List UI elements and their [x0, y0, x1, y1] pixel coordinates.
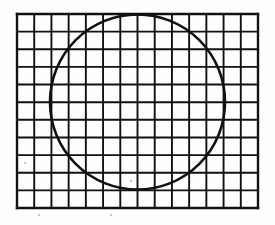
speck-below-center: [110, 214, 112, 216]
grid-layer: [17, 14, 258, 208]
speck-inner-center: [130, 180, 132, 182]
speck-below-left: [38, 214, 40, 216]
grid-circle-figure: [0, 0, 275, 225]
figure-container: Square grid with inscribed circle: [0, 0, 275, 225]
